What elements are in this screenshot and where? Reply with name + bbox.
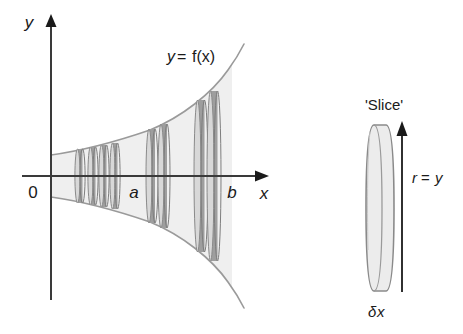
- radius-arrowhead: [397, 121, 408, 136]
- diagram-canvas: y x 0 a b y = f(x) 'Slice': [0, 0, 463, 334]
- thickness-label: δ x: [368, 303, 385, 320]
- radius-label-equals: =: [421, 169, 430, 186]
- origin-label: 0: [28, 183, 37, 202]
- lower-limit-label-a: a: [129, 183, 138, 202]
- curve-equation-y: y: [166, 48, 176, 65]
- x-axis-arrowhead: [255, 171, 269, 182]
- x-axis-label: x: [259, 184, 269, 203]
- slice-title-label: 'Slice': [365, 96, 403, 113]
- y-axis-arrowhead: [46, 14, 57, 27]
- curve-equation-fx: f(x): [192, 48, 215, 65]
- main-diagram-group: y x 0 a b y = f(x): [22, 13, 269, 308]
- y-axis-label: y: [24, 13, 35, 32]
- curve-equation-equals: =: [177, 48, 186, 65]
- radius-equation-label: r = y: [412, 169, 444, 186]
- curve-equation-label: y = f(x): [166, 48, 215, 65]
- radius-label-y: y: [434, 169, 444, 186]
- radius-label-r: r: [412, 169, 418, 186]
- upper-limit-label-b: b: [227, 183, 236, 202]
- slice-detail-group: 'Slice' r = y δ x: [365, 96, 444, 320]
- thickness-label-x: x: [376, 303, 385, 320]
- solid-of-revolution-figure: y x 0 a b y = f(x) 'Slice': [0, 0, 463, 334]
- thickness-label-delta: δ: [368, 303, 377, 320]
